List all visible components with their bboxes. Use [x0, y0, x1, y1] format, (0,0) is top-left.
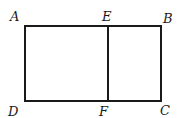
label-f: F [98, 104, 109, 118]
rectangle-diagram: A E B D F C [0, 0, 180, 118]
rectangle-abcd [25, 26, 161, 101]
label-d: D [7, 104, 19, 118]
label-a: A [9, 9, 19, 24]
label-c: C [160, 103, 170, 118]
label-e: E [101, 9, 112, 24]
label-b: B [162, 11, 173, 26]
